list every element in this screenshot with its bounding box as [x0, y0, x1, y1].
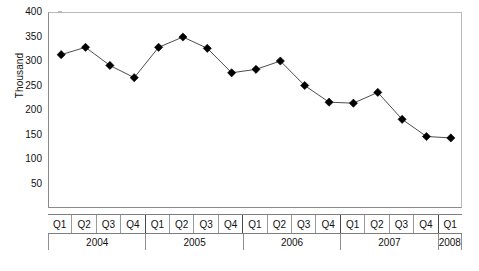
x-axis-quarter-cell: Q2 [72, 215, 96, 233]
x-axis-year-cell: 2006 [243, 234, 340, 250]
x-axis-quarter-cell: Q1 [146, 215, 170, 233]
y-axis-tick-label: 400 [14, 7, 42, 17]
data-point-marker [179, 33, 187, 41]
y-axis-tick-label: 150 [14, 130, 42, 140]
x-axis-quarter-labels: Q1Q2Q3Q4Q1Q2Q3Q4Q1Q2Q3Q4Q1Q2Q3Q4Q1 [48, 214, 462, 234]
y-axis-tick-label: 50 [14, 179, 42, 189]
x-axis-year-cell: 2007 [340, 234, 437, 250]
x-axis-quarter-cell: Q4 [219, 215, 243, 233]
x-axis-quarter-cell: Q3 [194, 215, 218, 233]
x-axis-year-cell: 2008 [438, 234, 462, 250]
data-point-marker [252, 65, 260, 73]
x-axis-quarter-cell: Q3 [390, 215, 414, 233]
x-axis-quarter-cell: Q1 [341, 215, 365, 233]
data-point-marker [349, 99, 357, 107]
x-axis-quarter-cell: Q4 [121, 215, 145, 233]
line-chart: Thousand 40035030025020015010050 Q1Q2Q3Q… [0, 0, 479, 271]
y-axis-tick-label: 300 [14, 56, 42, 66]
x-axis-year-cell: 2005 [145, 234, 242, 250]
data-point-marker [422, 132, 430, 140]
x-axis-year-cell: 2004 [48, 234, 145, 250]
y-axis-tick-label: 250 [14, 81, 42, 91]
x-axis-quarter-cell: Q4 [414, 215, 438, 233]
y-axis-tick-label: 100 [14, 154, 42, 164]
x-axis-quarter-cell: Q1 [48, 215, 72, 233]
data-series [49, 13, 463, 209]
data-point-marker [57, 51, 65, 59]
x-axis-quarter-cell: Q3 [97, 215, 121, 233]
x-axis-quarter-cell: Q1 [243, 215, 267, 233]
plot-area [48, 12, 462, 208]
data-point-marker [447, 134, 455, 142]
x-axis-quarter-cell: Q3 [292, 215, 316, 233]
x-axis-year-labels: 20042005200620072008 [48, 234, 462, 252]
x-axis-quarter-cell: Q2 [268, 215, 292, 233]
series-line [61, 37, 451, 138]
y-axis-tick-labels: 40035030025020015010050 [14, 0, 42, 209]
y-axis-tick-label: 200 [14, 105, 42, 115]
x-axis-quarter-cell: Q4 [316, 215, 340, 233]
data-point-marker [325, 98, 333, 106]
x-axis-quarter-cell: Q2 [170, 215, 194, 233]
x-axis-quarter-cell: Q2 [365, 215, 389, 233]
y-axis-tick-label: 350 [14, 32, 42, 42]
data-point-marker [106, 61, 114, 69]
data-point-marker [81, 43, 89, 51]
x-axis-quarter-cell: Q1 [439, 215, 462, 233]
